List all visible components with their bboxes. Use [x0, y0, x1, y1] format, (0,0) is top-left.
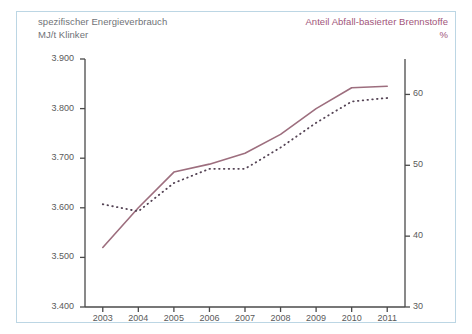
left-axis-title-line1: spezifischer Energieverbrauch — [38, 16, 167, 29]
right-axis-title-line1: Anteil Abfall-basierter Brennstoffe — [252, 16, 448, 29]
y-right-tick-40: 40 — [413, 230, 439, 240]
y-right-tick-30: 30 — [413, 301, 439, 311]
x-tick-2011: 2011 — [367, 313, 407, 323]
y-left-tick-3900: 3.900 — [28, 53, 74, 63]
y-right-tick-50: 50 — [413, 159, 439, 169]
x-tick-2009: 2009 — [296, 313, 336, 323]
y-right-tick-60: 60 — [413, 88, 439, 98]
x-tick-2003: 2003 — [83, 313, 123, 323]
right-axis-title-line2: % — [252, 29, 448, 42]
left-axis-title: spezifischer Energieverbrauch MJ/t Klink… — [38, 16, 167, 41]
right-axis-title: Anteil Abfall-basierter Brennstoffe % — [252, 16, 448, 41]
y-left-tick-3800: 3.800 — [28, 103, 74, 113]
chart-frame — [16, 11, 456, 323]
y-left-tick-3500: 3.500 — [28, 251, 74, 261]
x-tick-2008: 2008 — [261, 313, 301, 323]
x-tick-2010: 2010 — [332, 313, 372, 323]
left-axis-title-line2: MJ/t Klinker — [38, 29, 167, 42]
x-tick-2004: 2004 — [118, 313, 158, 323]
y-left-tick-3600: 3.600 — [28, 202, 74, 212]
x-tick-2006: 2006 — [189, 313, 229, 323]
x-tick-2007: 2007 — [225, 313, 265, 323]
y-left-tick-3400: 3.400 — [28, 301, 74, 311]
x-tick-2005: 2005 — [154, 313, 194, 323]
y-left-tick-3700: 3.700 — [28, 152, 74, 162]
